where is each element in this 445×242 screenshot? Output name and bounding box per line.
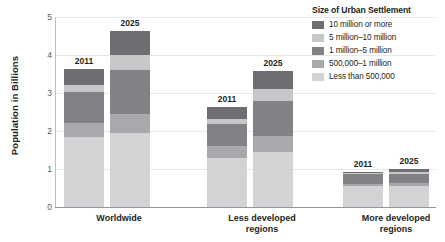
category-label-line: Less developed xyxy=(192,213,332,224)
bar-segment xyxy=(110,133,150,207)
bar-segment xyxy=(343,186,383,207)
bar-year-label: 2025 xyxy=(243,59,303,68)
category-label-line: More developed xyxy=(326,213,445,224)
legend-label: Less than 500,000 xyxy=(329,72,395,81)
bar-segment xyxy=(253,71,293,89)
bar-segment xyxy=(110,114,150,133)
bar-segment xyxy=(253,152,293,207)
bar-2011[interactable] xyxy=(343,172,383,207)
bar-segment xyxy=(110,31,150,55)
legend-swatch-icon xyxy=(312,34,324,42)
legend-swatch-icon xyxy=(312,60,324,68)
legend-title: Size of Urban Settlement xyxy=(312,5,445,15)
stacked-bar-chart: Population in Billions 012345 2011202520… xyxy=(0,0,445,242)
bar-year-label: 2011 xyxy=(54,57,114,66)
bar-segment xyxy=(64,69,104,85)
bar-segment xyxy=(64,123,104,137)
category-label-line: regions xyxy=(326,224,445,235)
y-axis-title: Population in Billions xyxy=(9,31,20,181)
bar-segment xyxy=(207,124,247,146)
y-tick-label: 2 xyxy=(36,127,52,136)
bar-segment xyxy=(253,89,293,102)
bar-segment xyxy=(110,55,150,70)
bar-segment xyxy=(389,174,429,184)
bar-2025[interactable] xyxy=(253,71,293,207)
bar-segment xyxy=(110,70,150,114)
category-label: Less developedregions xyxy=(192,213,332,235)
legend: Size of Urban Settlement 10 million or m… xyxy=(312,5,445,84)
x-axis-line xyxy=(55,207,436,208)
legend-item[interactable]: 10 million or more xyxy=(312,19,445,31)
legend-label: 10 million or more xyxy=(329,20,392,29)
legend-item[interactable]: Less than 500,000 xyxy=(312,71,445,83)
bar-segment xyxy=(343,174,383,184)
bar-2011[interactable] xyxy=(207,107,247,207)
bar-year-label: 2025 xyxy=(100,19,160,28)
bar-segment xyxy=(207,107,247,118)
legend-label: 1 million–5 million xyxy=(329,46,392,55)
legend-label: 500,000–1 million xyxy=(329,59,391,68)
legend-swatch-icon xyxy=(312,47,324,55)
bar-segment xyxy=(64,92,104,124)
bar-segment xyxy=(207,158,247,207)
y-axis-tick-labels: 012345 xyxy=(30,0,52,242)
y-tick-label: 0 xyxy=(36,203,52,212)
y-tick-label: 1 xyxy=(36,165,52,174)
legend-item[interactable]: 1 million–5 million xyxy=(312,45,445,57)
y-tick-label: 4 xyxy=(36,51,52,60)
y-tick-label: 5 xyxy=(36,13,52,22)
bar-segment xyxy=(253,101,293,135)
category-label-line: Worldwide xyxy=(49,213,189,224)
legend-rows: 10 million or more5 million–10 million1 … xyxy=(312,19,445,83)
category-label-line: regions xyxy=(192,224,332,235)
legend-swatch-icon xyxy=(312,21,324,29)
category-label: More developedregions xyxy=(326,213,445,235)
legend-item[interactable]: 500,000–1 million xyxy=(312,58,445,70)
bar-segment xyxy=(64,137,104,207)
bar-segment xyxy=(253,136,293,153)
bar-segment xyxy=(389,186,429,207)
bar-segment xyxy=(207,146,247,158)
bar-2025[interactable] xyxy=(389,169,429,207)
legend-swatch-icon xyxy=(312,73,324,81)
legend-item[interactable]: 5 million–10 million xyxy=(312,32,445,44)
legend-label: 5 million–10 million xyxy=(329,33,396,42)
bar-2011[interactable] xyxy=(64,69,104,207)
bar-year-label: 2025 xyxy=(379,157,439,166)
bar-2025[interactable] xyxy=(110,31,150,207)
category-label: Worldwide xyxy=(49,213,189,224)
bar-year-label: 2011 xyxy=(197,95,257,104)
y-tick-label: 3 xyxy=(36,89,52,98)
